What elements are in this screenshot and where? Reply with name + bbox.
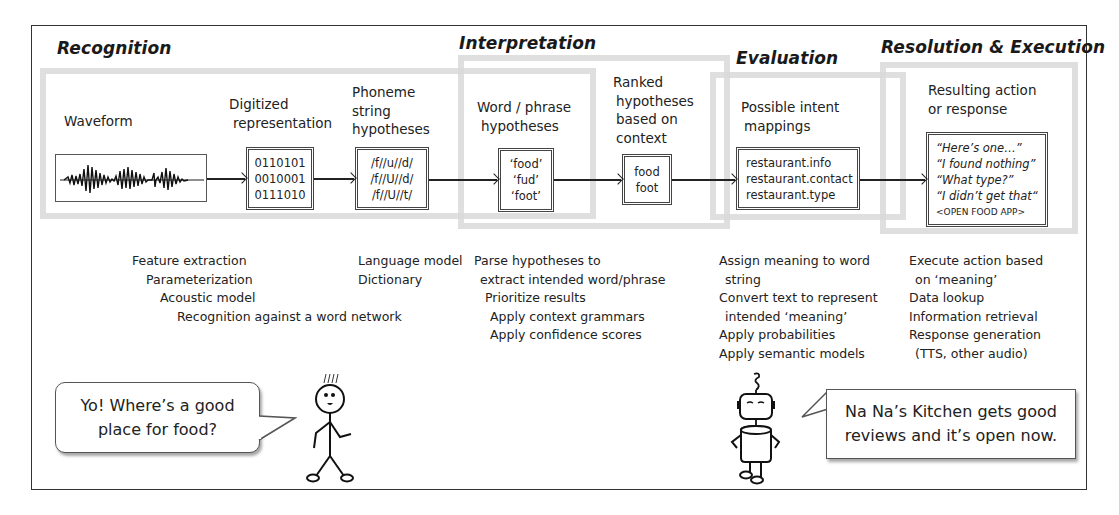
resolution-title: Resolution & Execution [881,37,1105,57]
arrow-word-to-ranked [554,179,621,181]
interpretation-description: Parse hypotheses to extract intended wor… [474,252,666,345]
word-label: Word / phrase hypotheses [477,98,571,135]
recognition-language-description: Language model Dictionary [358,252,463,289]
recognition-title: Recognition [57,38,171,58]
user-bubble-tail-icon [257,410,297,450]
arrow-intent-to-result [860,179,925,181]
intent-label: Possible intent mappings [741,98,839,135]
result-label: Resulting action or response [928,81,1036,118]
waveform-label: Waveform [64,112,133,131]
word-node: ‘food’ ‘fud’ ‘foot’ [498,148,554,212]
ranked-node: food foot [622,154,672,205]
interpretation-title: Interpretation [459,33,596,53]
evaluation-description: Assign meaning to word string Convert te… [719,252,878,363]
phoneme-label: Phoneme string hypotheses [352,83,430,139]
evaluation-title: Evaluation [736,48,838,68]
stick-figure-icon [300,370,360,490]
user-speech-bubble: Yo! Where’s a good place for food? [55,382,260,453]
intent-node: restaurant.info restaurant.contact resta… [736,147,860,210]
arrow-digitized-to-phoneme [314,178,354,180]
arrow-phoneme-to-word [429,179,497,181]
phoneme-node: /f//u//d/ /f//U//d/ /f//U//t/ [355,147,429,210]
arrow-waveform-to-digitized [207,178,245,180]
result-node: “Here’s one…” “I found nothing” “What ty… [926,132,1048,227]
resolution-description: Execute action based on ‘meaning’ Data l… [909,252,1043,363]
arrow-ranked-to-intent [672,179,735,181]
ranked-label: Ranked hypotheses based on context [616,73,694,147]
digitized-label: Digitized representation [229,95,332,132]
waveform-box [55,154,207,202]
assistant-speech-bubble: Na Na’s Kitchen gets good reviews and it… [826,389,1076,459]
digitized-node: 0110101 0010001 0111010 [246,147,314,210]
waveform-icon [56,155,206,201]
robot-icon [727,370,787,490]
